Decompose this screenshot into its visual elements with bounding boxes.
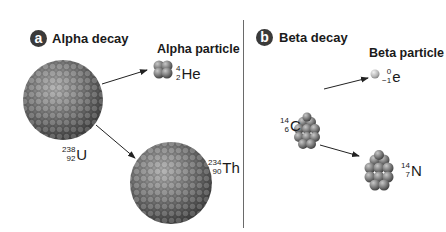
uranium-symbol: U bbox=[76, 146, 87, 163]
panel-title-alpha: Alpha decay bbox=[52, 31, 129, 46]
nitrogen-mass-number: 14 bbox=[401, 161, 410, 170]
thorium-mass-number: 234 bbox=[208, 158, 221, 167]
carbon-atomic-number: 6 bbox=[280, 125, 289, 134]
electron-isotope-label: 0−1e bbox=[382, 67, 400, 85]
alpha-particle-label: Alpha particle bbox=[157, 42, 240, 56]
alpha-particle-icon bbox=[154, 61, 173, 79]
thorium-nucleus-icon bbox=[130, 142, 212, 224]
helium-mass-number: 4 bbox=[176, 64, 180, 73]
electron-mass-number: 0 bbox=[382, 67, 391, 76]
helium-symbol: He bbox=[181, 65, 200, 82]
uranium-mass-number: 238 bbox=[62, 145, 75, 154]
nitrogen-atomic-number: 7 bbox=[401, 170, 410, 179]
arrow-to-thorium bbox=[96, 125, 135, 158]
nitrogen-symbol: N bbox=[411, 162, 422, 179]
nitrogen-nucleus-icon bbox=[365, 150, 394, 191]
panel-badge-a: a bbox=[30, 30, 47, 47]
carbon-symbol: C bbox=[290, 117, 301, 134]
carbon-isotope-label: 146C bbox=[280, 116, 301, 134]
thorium-atomic-number: 90 bbox=[208, 167, 221, 176]
panel-badge-b: b bbox=[256, 29, 273, 46]
beta-particle-icon bbox=[371, 70, 380, 79]
electron-symbol: e bbox=[392, 68, 400, 85]
arrow-to-alpha-particle bbox=[102, 70, 147, 84]
helium-atomic-number: 2 bbox=[176, 73, 180, 82]
arrow-to-nitrogen bbox=[320, 145, 359, 156]
panel-divider bbox=[243, 20, 244, 228]
helium-isotope-label: 42He bbox=[176, 64, 201, 82]
thorium-symbol: Th bbox=[222, 159, 240, 176]
uranium-atomic-number: 92 bbox=[62, 154, 75, 163]
arrow-to-beta-particle bbox=[324, 78, 368, 89]
uranium-nucleus-icon bbox=[23, 60, 103, 140]
electron-charge-number: −1 bbox=[382, 76, 391, 85]
thorium-isotope-label: 23490Th bbox=[208, 158, 240, 176]
panel-title-beta: Beta decay bbox=[279, 30, 348, 45]
carbon-mass-number: 14 bbox=[280, 116, 289, 125]
beta-particle-label: Beta particle bbox=[369, 46, 444, 60]
uranium-isotope-label: 23892U bbox=[62, 145, 87, 163]
nitrogen-isotope-label: 147N bbox=[401, 161, 422, 179]
